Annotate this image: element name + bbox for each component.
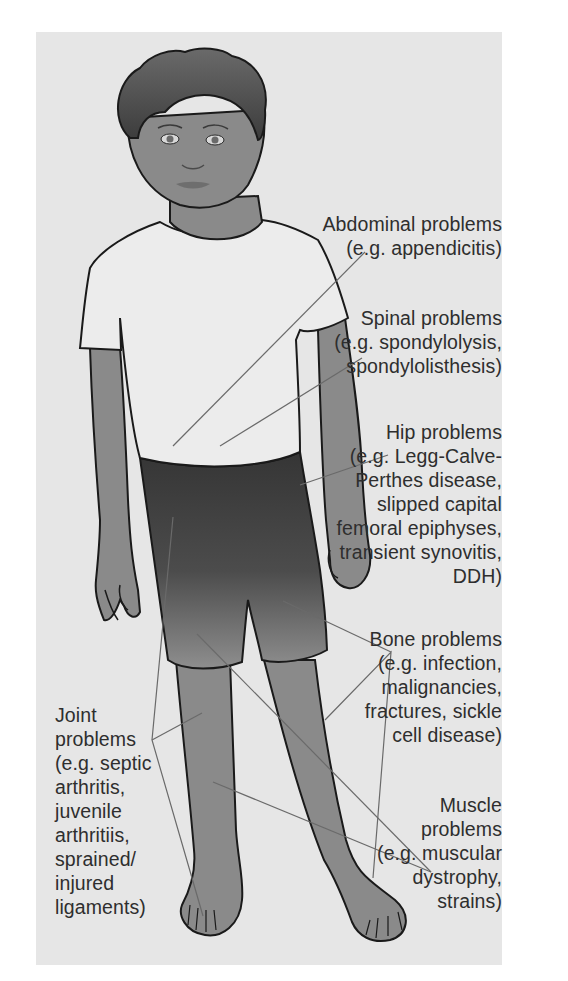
label-spinal: Spinal problems (e.g. spondylolysis, spo…	[334, 306, 502, 378]
label-muscle: Muscle problems (e.g. muscular dystrophy…	[377, 793, 502, 913]
head	[118, 49, 266, 208]
label-abdominal: Abdominal problems (e.g. appendicitis)	[322, 212, 502, 260]
left-leg	[176, 660, 242, 935]
label-bone: Bone problems (e.g. infection, malignanc…	[365, 627, 502, 747]
label-hip: Hip problems (e.g. Legg-Calve- Perthes d…	[337, 420, 502, 588]
shorts	[140, 452, 327, 669]
label-joint: Joint problems (e.g. septic arthritis, j…	[55, 703, 152, 919]
